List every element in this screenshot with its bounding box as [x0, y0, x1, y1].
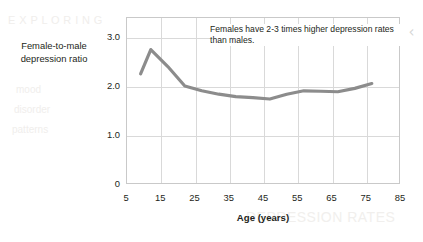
- x-tick-label: 35: [218, 193, 240, 203]
- background-ghost-text: patterns: [12, 124, 48, 135]
- x-tick-label: 65: [321, 193, 343, 203]
- y-axis-title: Female-to-male depression ratio: [6, 40, 102, 65]
- background-ghost-text: E X P L O R I N G: [8, 14, 103, 26]
- x-tick-label: 25: [184, 193, 206, 203]
- y-tick-label: 3.0: [96, 32, 120, 42]
- background-ghost-text: disorder: [14, 104, 50, 115]
- x-tick-label: 45: [252, 193, 274, 203]
- y-tick-label: 1.0: [96, 130, 120, 140]
- chevron-left-icon[interactable]: ‹: [405, 24, 418, 40]
- y-axis-title-line-1: Female-to-male: [6, 40, 102, 53]
- y-tick-label: 2.0: [96, 81, 120, 91]
- y-axis-title-line-2: depression ratio: [6, 53, 102, 66]
- depression-ratio-figure: E X P L O R I N G mood disorder patterns…: [0, 0, 423, 242]
- x-tick-label: 85: [389, 193, 411, 203]
- x-tick-label: 75: [355, 193, 377, 203]
- x-tick-label: 5: [115, 193, 137, 203]
- x-axis-title: Age (years): [126, 212, 400, 223]
- chart-annotation-note: Females have 2-3 times higher depression…: [210, 24, 400, 46]
- background-ghost-text: mood: [16, 84, 41, 95]
- y-tick-label: 0: [96, 179, 120, 189]
- x-tick-label: 55: [286, 193, 308, 203]
- x-tick-label: 15: [149, 193, 171, 203]
